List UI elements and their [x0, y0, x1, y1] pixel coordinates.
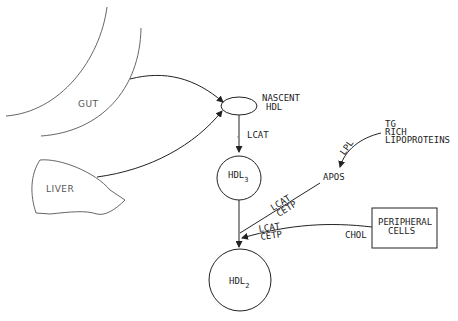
lcat-label-nascent: LCAT [247, 130, 269, 140]
chol-label: CHOL [345, 230, 367, 240]
apos-label: APOS [323, 172, 345, 182]
hdl-metabolism-diagram: GUT LIVER NASCENT HDL · LCAT HDL3 TG RIC… [0, 0, 458, 321]
liver-label: LIVER [46, 184, 74, 194]
liver-to-nascent-arrow [97, 111, 222, 177]
hdl3-label: HDL3 [228, 170, 248, 184]
hdl2-label: HDL2 [229, 276, 249, 290]
svg-text:·: · [236, 133, 240, 140]
gut-label: GUT [78, 99, 99, 109]
nascent-hdl-label-2: HDL [266, 102, 282, 112]
nascent-hdl-ellipse [221, 97, 257, 115]
lipoproteins-label: LIPOPROTEINS [385, 135, 450, 145]
gut-to-nascent-arrow [130, 75, 223, 102]
cetp-label-peripheral: CETP [260, 229, 283, 242]
gut-shape [6, 7, 141, 136]
cells-label: CELLS [388, 226, 415, 236]
